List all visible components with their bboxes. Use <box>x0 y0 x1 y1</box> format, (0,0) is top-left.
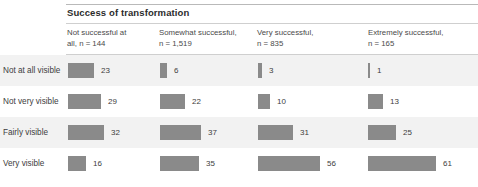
table-row: Not very visible 29 22 10 13 <box>0 86 478 117</box>
header-rule-mid <box>66 23 478 24</box>
column-header-2-line2: n = 835 <box>257 39 349 50</box>
bar-r2c1 <box>160 125 201 140</box>
bar-r3c2 <box>258 156 320 171</box>
bar-r1c2 <box>258 94 270 109</box>
bar-cell-r1c1: 22 <box>160 86 270 117</box>
bar-value-r2c2: 31 <box>300 117 309 148</box>
bar-r2c0 <box>68 125 104 140</box>
table-row: Not at all visible 23 6 3 1 <box>0 55 478 86</box>
bar-r0c2 <box>258 63 262 78</box>
bar-value-r2c1: 37 <box>208 117 217 148</box>
column-header-0-line1: Not successful at <box>67 28 126 37</box>
bar-cell-r2c2: 31 <box>258 117 368 148</box>
bar-value-r3c0: 16 <box>93 148 102 179</box>
bar-r1c0 <box>68 94 101 109</box>
table-row: Very visible 16 35 56 61 <box>0 148 478 179</box>
bar-value-r2c3: 25 <box>403 117 412 148</box>
column-header-1-line2: n = 1,519 <box>159 39 251 50</box>
bar-value-r1c0: 29 <box>108 86 117 117</box>
bar-cell-r0c3: 1 <box>368 55 478 86</box>
bar-value-r1c1: 22 <box>192 86 201 117</box>
bar-cell-r3c3: 61 <box>368 148 478 179</box>
bar-value-r3c2: 56 <box>327 148 336 179</box>
chart-title: Success of transformation <box>67 7 189 18</box>
bar-value-r1c2: 10 <box>277 86 286 117</box>
bar-cell-r3c1: 35 <box>160 148 270 179</box>
bar-r1c3 <box>368 94 383 109</box>
column-header-3-line2: n = 165 <box>368 39 460 50</box>
bar-cell-r0c2: 3 <box>258 55 368 86</box>
bar-value-r3c1: 35 <box>206 148 215 179</box>
row-label-2: Fairly visible <box>3 117 48 148</box>
column-header-1: Somewhat successful, n = 1,519 <box>159 28 251 49</box>
column-header-3: Extremely successful, n = 165 <box>368 28 460 49</box>
column-header-1-line1: Somewhat successful, <box>159 28 237 37</box>
bar-value-r3c3: 61 <box>443 148 452 179</box>
bar-cell-r3c2: 56 <box>258 148 368 179</box>
column-header-2: Very successful, n = 835 <box>257 28 349 49</box>
bar-r1c1 <box>160 94 185 109</box>
row-label-3: Very visible <box>3 148 44 179</box>
chart-header: Success of transformation Not successful… <box>66 4 478 54</box>
bar-value-r1c3: 13 <box>390 86 399 117</box>
bar-r0c3 <box>368 63 370 78</box>
bar-cell-r2c1: 37 <box>160 117 270 148</box>
bar-r0c0 <box>68 63 94 78</box>
bar-cell-r1c2: 10 <box>258 86 368 117</box>
table-row: Fairly visible 32 37 31 25 <box>0 117 478 148</box>
bar-r3c0 <box>68 156 86 171</box>
row-label-1: Not very visible <box>3 86 59 117</box>
bar-value-r0c2: 3 <box>269 55 273 86</box>
bar-r2c3 <box>368 125 396 140</box>
bar-r0c1 <box>160 63 167 78</box>
bar-r2c2 <box>258 125 293 140</box>
bar-cell-r1c3: 13 <box>368 86 478 117</box>
bar-value-r2c0: 32 <box>111 117 120 148</box>
bar-cell-r2c3: 25 <box>368 117 478 148</box>
column-header-3-line1: Extremely successful, <box>368 28 443 37</box>
column-header-2-line1: Very successful, <box>257 28 313 37</box>
bar-value-r0c1: 6 <box>174 55 178 86</box>
bar-r3c3 <box>368 156 436 171</box>
bar-cell-r0c1: 6 <box>160 55 270 86</box>
row-label-0: Not at all visible <box>3 55 60 86</box>
header-rule-top <box>66 4 478 5</box>
bar-value-r0c3: 1 <box>377 55 381 86</box>
column-header-0: Not successful at all, n = 144 <box>67 28 159 49</box>
transformation-success-chart: Success of transformation Not successful… <box>0 0 478 187</box>
column-header-0-line2: all, n = 144 <box>67 39 159 50</box>
bar-r3c1 <box>160 156 199 171</box>
bar-value-r0c0: 23 <box>101 55 110 86</box>
